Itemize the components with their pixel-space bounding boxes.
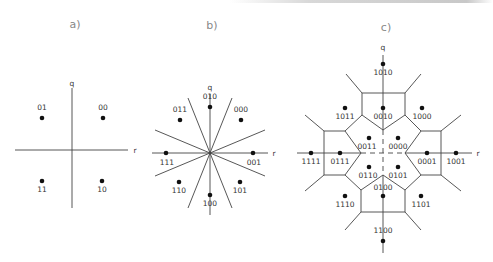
constellation-points: 010011000111001110101100 <box>160 92 262 208</box>
point-label: 1101 <box>411 200 430 209</box>
boundary <box>305 115 324 131</box>
constellation-point <box>208 193 213 198</box>
constellation-point <box>381 106 386 111</box>
boundary <box>346 74 362 93</box>
point-label: 1100 <box>373 226 392 235</box>
constellation-point <box>420 106 425 111</box>
constellation-point <box>251 151 256 156</box>
point-label: 0001 <box>417 157 436 166</box>
constellation-point <box>239 118 244 123</box>
constellation-figure: a) q r 01001110 b) q r 01001100011100111… <box>0 0 493 262</box>
panel-c-title: c) <box>381 21 391 34</box>
boundary <box>305 175 324 191</box>
constellation-point <box>367 165 372 170</box>
constellation-point <box>343 194 348 199</box>
point-label: 0010 <box>373 112 392 121</box>
point-label: 111 <box>160 158 175 167</box>
constellation-point <box>381 194 386 199</box>
constellation-point <box>343 106 348 111</box>
point-label: 110 <box>172 186 187 195</box>
constellation-point <box>238 180 243 185</box>
constellation-point <box>40 116 45 121</box>
point-label: 100 <box>203 199 218 208</box>
point-label: 1001 <box>446 157 465 166</box>
boundary <box>345 212 361 230</box>
point-label: 11 <box>37 185 47 194</box>
constellation-point <box>177 180 182 185</box>
panel-a: a) q r 01001110 <box>15 18 137 208</box>
point-label: 000 <box>234 105 249 114</box>
boundary <box>441 175 461 191</box>
panel-a-title: a) <box>69 18 80 31</box>
constellation-point <box>100 179 105 184</box>
q-axis-label: q <box>208 83 213 92</box>
q-axis-label: q <box>381 43 386 52</box>
constellation-point <box>396 136 401 141</box>
boundary <box>405 212 421 230</box>
point-label: 1000 <box>412 112 431 121</box>
constellation-point <box>164 151 169 156</box>
point-label: 01 <box>37 103 47 112</box>
q-axis-label: q <box>70 79 75 88</box>
boundary <box>405 74 421 93</box>
point-label: 1111 <box>301 157 320 166</box>
point-label: 1011 <box>335 112 354 121</box>
constellation-point <box>454 151 459 156</box>
point-label: 0011 <box>357 142 376 151</box>
boundary <box>441 115 461 131</box>
point-label: 0000 <box>388 142 407 151</box>
constellation-point <box>419 194 424 199</box>
constellation-point <box>396 165 401 170</box>
constellation-point <box>178 118 183 123</box>
constellation-point <box>338 151 343 156</box>
panel-b: b) q r 010011000111001110101100 <box>152 19 276 215</box>
point-label: 001 <box>247 158 262 167</box>
point-label: 1110 <box>335 200 354 209</box>
point-label: 10 <box>97 185 107 194</box>
point-label: 0111 <box>330 157 349 166</box>
point-label: 00 <box>98 103 108 112</box>
constellation-point <box>208 105 213 110</box>
point-label: 0100 <box>373 183 392 192</box>
constellation-point <box>381 239 386 244</box>
point-label: 0110 <box>358 171 377 180</box>
constellation-point <box>309 151 314 156</box>
point-label: 011 <box>173 105 188 114</box>
constellation-point <box>40 179 45 184</box>
constellation-points: 01001110 <box>37 103 108 194</box>
point-label: 0101 <box>388 171 407 180</box>
r-axis-label: r <box>133 146 137 155</box>
constellation-point <box>101 116 106 121</box>
point-label: 1010 <box>373 68 392 77</box>
r-axis-label: r <box>272 149 276 158</box>
panel-c: c) q r 101000101011100000110000111101110… <box>297 21 480 253</box>
constellation-point <box>425 151 430 156</box>
panel-b-title: b) <box>206 19 217 32</box>
point-label: 010 <box>203 92 218 101</box>
constellation-point <box>367 136 372 141</box>
constellation-point <box>381 62 386 67</box>
point-label: 101 <box>233 186 248 195</box>
r-axis-label: r <box>476 149 480 158</box>
